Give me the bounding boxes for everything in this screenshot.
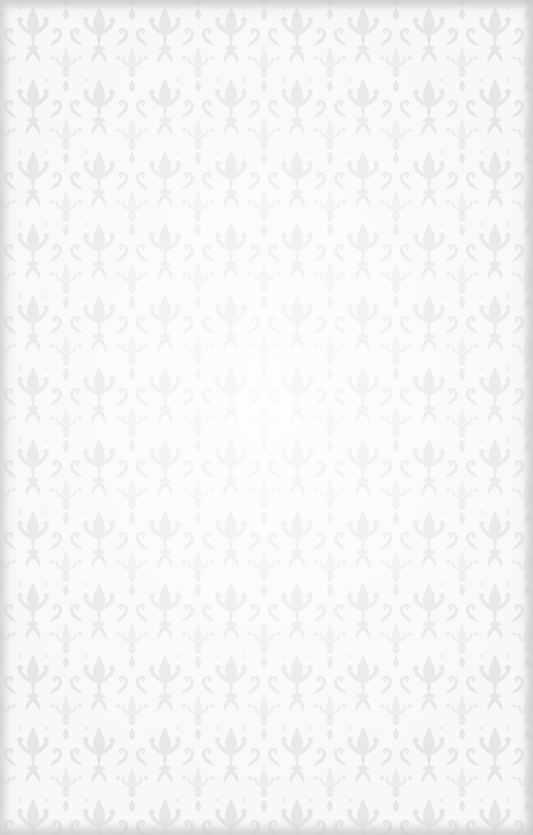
left-edge-shade — [0, 0, 8, 835]
right-edge-shade — [523, 0, 533, 835]
damask-background — [0, 0, 533, 835]
bottom-edge-shade — [0, 823, 533, 835]
damask-pattern — [0, 0, 533, 835]
top-edge-shade — [0, 0, 533, 10]
